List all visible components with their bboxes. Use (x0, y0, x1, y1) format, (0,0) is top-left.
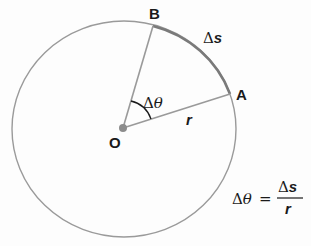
svg-text:r: r (285, 200, 292, 217)
center-point-o (119, 124, 127, 132)
label-radius-r: r (186, 111, 193, 128)
diagram-canvas: B A O Δs Δθ r Δθ = Δs r (0, 0, 311, 246)
label-a: A (236, 86, 247, 103)
svg-text:Δs: Δs (278, 178, 297, 196)
label-delta-theta: Δθ (143, 94, 163, 112)
circle-diagram: B A O Δs Δθ r Δθ = Δs r (0, 0, 311, 246)
label-b: B (149, 5, 160, 22)
svg-text:Δθ: Δθ (232, 190, 252, 208)
radius-line-oa (123, 94, 230, 128)
label-o: O (109, 134, 121, 151)
formula-delta-theta: Δθ = Δs r (232, 178, 303, 217)
svg-text:=: = (259, 190, 272, 208)
label-arc-delta-s: Δs (203, 29, 222, 47)
